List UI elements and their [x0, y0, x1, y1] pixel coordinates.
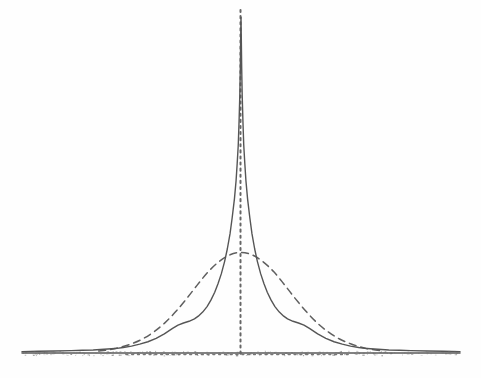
density-plot-svg [0, 0, 481, 378]
figure-root [0, 0, 481, 378]
